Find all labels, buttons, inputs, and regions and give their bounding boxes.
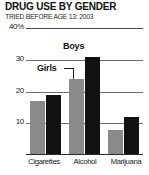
bar-group	[26, 28, 143, 155]
x-axis-category-labels: CigarettesAlcoholMarijuana	[0, 157, 149, 171]
x-axis-baseline	[26, 154, 143, 155]
bar-girls-marijuana	[108, 130, 123, 155]
y-tick-label-30: 30	[0, 54, 24, 63]
y-tick-label-10: 10	[0, 117, 24, 126]
x-label-marijuana: Marijuana	[97, 157, 149, 166]
bar-girls-alcohol	[69, 79, 84, 155]
chart-figure: DRUG USE BY GENDER TRIED BEFORE AGE 13: …	[0, 0, 149, 175]
y-tick-label-40: 40%	[0, 22, 24, 31]
bar-boys-marijuana	[124, 117, 139, 155]
annotation-boys: Boys	[63, 41, 84, 51]
bar-boys-alcohol	[85, 57, 100, 155]
chart-title: DRUG USE BY GENDER	[5, 1, 116, 12]
bar-girls-cigarettes	[30, 101, 45, 155]
y-tick-label-20: 20	[0, 86, 24, 95]
bar-boys-cigarettes	[46, 95, 61, 155]
annotation-girls: Girls	[37, 63, 57, 73]
chart-subtitle: TRIED BEFORE AGE 13: 2003	[5, 13, 93, 20]
girls-leader-vertical	[73, 68, 74, 79]
